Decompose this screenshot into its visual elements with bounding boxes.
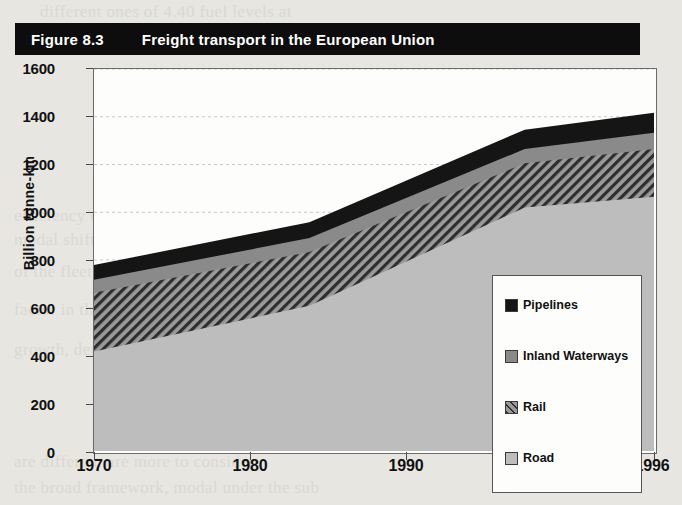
legend-label: Rail [523, 400, 546, 414]
legend-item-rail[interactable]: Rail [505, 400, 546, 414]
legend-label: Inland Waterways [523, 349, 628, 363]
y-tick-label: 800 [31, 252, 55, 269]
legend-label: Road [523, 451, 554, 465]
y-tick-label: 400 [31, 348, 55, 365]
swatch-pipelines-icon [505, 299, 518, 312]
bleed-line: different ones of 4.40 fuel levels at [40, 2, 292, 22]
swatch-road-icon [505, 452, 518, 465]
y-tick-label: 600 [31, 300, 55, 317]
swatch-inland-waterways-icon [505, 350, 518, 363]
legend-label: Pipelines [523, 298, 578, 312]
chart-legend: Pipelines Inland Waterways Rail Road [492, 275, 642, 493]
legend-item-road[interactable]: Road [505, 451, 554, 465]
chart-container: Billion tonne-km 1600 1400 1200 1000 800… [0, 55, 682, 505]
y-tick-label: 1400 [22, 108, 55, 125]
figure-number: Figure 8.3 [31, 31, 104, 48]
y-tick-label: 200 [31, 396, 55, 413]
swatch-rail-icon [505, 401, 518, 414]
figure-title-banner: Figure 8.3 Freight transport in the Euro… [15, 23, 640, 55]
figure-title: Freight transport in the European Union [142, 31, 435, 48]
y-tick-label: 0 [47, 444, 55, 461]
y-tick-label: 1000 [22, 204, 55, 221]
x-tick-label: 1970 [77, 457, 112, 475]
x-tick-label: 1980 [233, 457, 268, 475]
y-tick-label: 1600 [22, 60, 55, 77]
y-tick-label: 1200 [22, 156, 55, 173]
legend-item-inland-waterways[interactable]: Inland Waterways [505, 349, 628, 363]
x-tick-label: 1990 [389, 457, 424, 475]
legend-item-pipelines[interactable]: Pipelines [505, 298, 578, 312]
y-axis: Billion tonne-km 1600 1400 1200 1000 800… [0, 55, 93, 455]
